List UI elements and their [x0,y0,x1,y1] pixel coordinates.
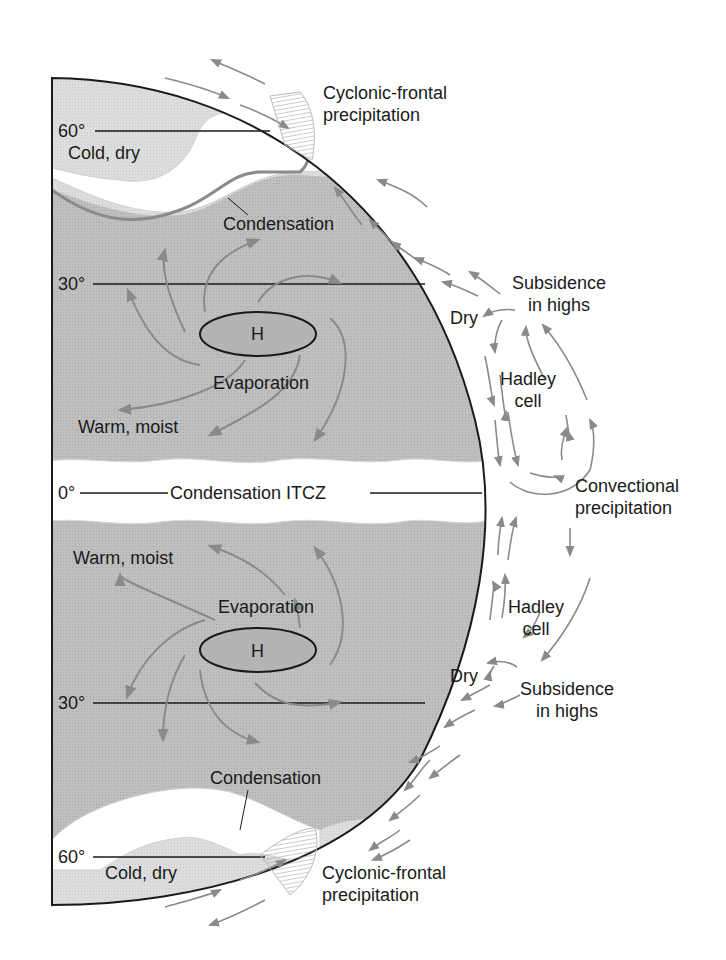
convectional-precipitation-label: Convectional precipitation [575,475,679,519]
north-subsidence-line-2: in highs [512,294,606,316]
north-high-label: H [251,323,264,345]
north-cyclonic-line-1: Cyclonic-frontal [323,82,447,104]
south-subsidence-label: Subsidence in highs [520,678,614,722]
north-cold-dry-label: Cold, dry [68,142,140,164]
latitude-label-north-60: 60° [58,120,85,142]
south-cyclonic-line-2: precipitation [322,884,446,906]
latitude-label-north-30: 30° [58,273,85,295]
latitude-label-south-30: 30° [58,692,85,714]
north-condensation-label: Condensation [223,213,334,235]
north-subsidence-line-1: Subsidence [512,272,606,294]
south-evaporation-label: Evaporation [218,596,314,618]
south-high-label: H [251,640,264,662]
convectional-line-1: Convectional [575,475,679,497]
south-condensation-label: Condensation [210,767,321,789]
north-evaporation-label: Evaporation [213,372,309,394]
latitude-label-equator: 0° [58,482,75,504]
north-warm-moist-label: Warm, moist [78,416,178,438]
south-hadley-line-2: cell [508,618,564,640]
south-dry-label: Dry [450,665,478,687]
convectional-line-2: precipitation [575,497,679,519]
north-hadley-line-1: Hadley [500,368,556,390]
south-cold-dry-label: Cold, dry [105,862,177,884]
south-warm-moist-label: Warm, moist [73,547,173,569]
latitude-label-south-60: 60° [58,846,85,868]
north-cyclonic-frontal-label: Cyclonic-frontal precipitation [323,82,447,126]
north-hadley-line-2: cell [500,390,556,412]
north-hadley-cell-label: Hadley cell [500,368,556,412]
south-hadley-line-1: Hadley [508,596,564,618]
north-cyclonic-line-2: precipitation [323,104,447,126]
south-cyclonic-frontal-label: Cyclonic-frontal precipitation [322,862,446,906]
south-subsidence-line-1: Subsidence [520,678,614,700]
north-dry-label: Dry [450,307,478,329]
itcz-label: Condensation ITCZ [170,482,326,504]
south-cyclonic-line-1: Cyclonic-frontal [322,862,446,884]
north-subsidence-label: Subsidence in highs [512,272,606,316]
south-subsidence-line-2: in highs [520,700,614,722]
south-hadley-cell-label: Hadley cell [508,596,564,640]
